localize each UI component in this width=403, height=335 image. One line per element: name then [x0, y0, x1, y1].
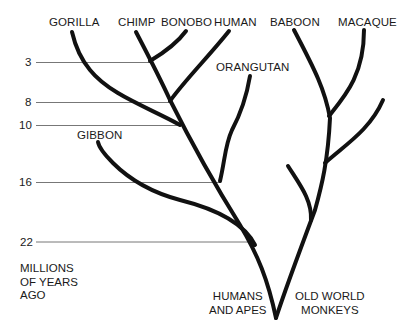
tick-16: 16: [19, 176, 32, 189]
label-orangutan: ORANGUTAN: [216, 61, 290, 74]
label-macaque: MACAQUE: [338, 16, 397, 29]
tick-10: 10: [19, 119, 32, 132]
group-humans-and-apes: HUMANS AND APES: [209, 290, 267, 317]
label-gorilla: GORILLA: [49, 16, 100, 29]
label-gibbon: GIBBON: [77, 129, 122, 142]
branch-macaque: [329, 30, 364, 116]
label-baboon: BABOON: [270, 16, 320, 29]
label-human: HUMAN: [214, 16, 257, 29]
branch-bonobo: [150, 31, 186, 61]
label-bonobo: BONOBO: [161, 16, 212, 29]
tick-8: 8: [25, 96, 31, 109]
tick-3: 3: [25, 56, 31, 69]
branch-monkey-left: [288, 166, 311, 220]
branch-gorilla: [72, 32, 180, 125]
group-old-world-monkeys: OLD WORLD MONKEYS: [295, 290, 365, 317]
branch-chimp-trunk: [136, 32, 276, 318]
axis-title: MILLIONS OF YEARS AGO: [20, 262, 78, 303]
label-chimp: CHIMP: [118, 16, 156, 29]
tick-22: 22: [20, 236, 33, 249]
branch-orangutan: [220, 76, 250, 181]
branch-gibbon: [98, 142, 255, 245]
